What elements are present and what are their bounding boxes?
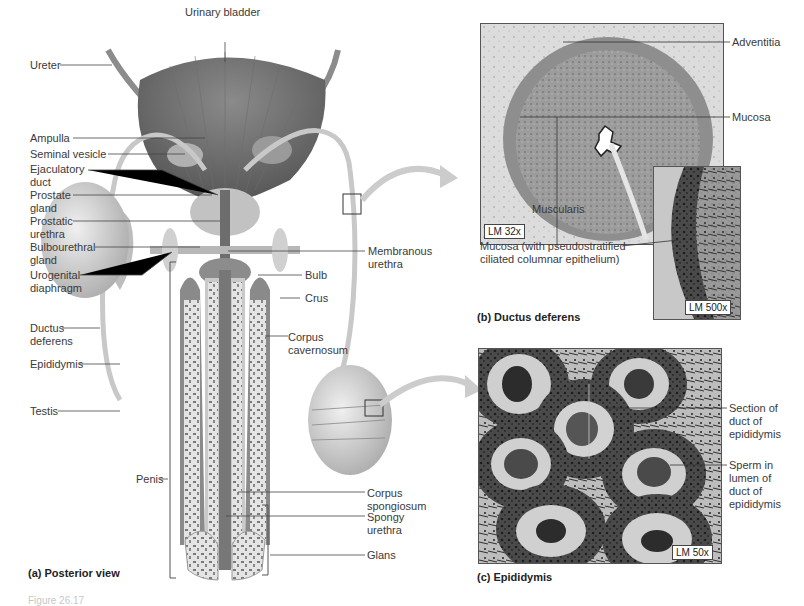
label-mucosa: Mucosa [732, 111, 771, 124]
caption-panel-a: (a) Posterior view [28, 567, 120, 579]
label-muscularis: Muscularis [532, 203, 585, 216]
label-corpus-cavernosum: Corpus cavernosum [288, 331, 348, 357]
label-sperm-in-lumen: Sperm in lumen of duct of epididymis [729, 459, 781, 511]
label-ejaculatory-duct: Ejaculatory duct [30, 163, 84, 189]
label-adventitia: Adventitia [732, 36, 780, 49]
caption-panel-c: (c) Epididymis [477, 571, 552, 583]
label-ampulla: Ampulla [30, 132, 70, 145]
caption-panel-b: (b) Ductus deferens [477, 311, 580, 323]
label-seminal-vesicle: Seminal vesicle [30, 148, 106, 161]
label-membranous-urethra: Membranous urethra [368, 245, 432, 271]
label-crus: Crus [305, 292, 328, 305]
label-prostatic-urethra: Prostatic urethra [30, 215, 73, 241]
label-glans: Glans [367, 549, 396, 562]
label-bulb: Bulb [305, 269, 327, 282]
label-spongy-urethra: Spongy urethra [367, 511, 404, 537]
label-ductus-deferens: Ductus deferens [30, 322, 73, 348]
label-section-of-duct: Section of duct of epididymis [729, 402, 781, 441]
label-urogenital-diaphragm: Urogenital diaphragm [30, 269, 82, 295]
label-penis: Penis [136, 473, 164, 486]
figure-number: Figure 26.17 [28, 594, 84, 606]
label-mucosa-epithelium: Mucosa (with pseudostratified ciliated c… [480, 240, 626, 266]
label-bulbourethral-gland: Bulbourethral gland [30, 241, 95, 267]
label-epididymis: Epididymis [30, 358, 83, 371]
label-ureter: Ureter [30, 59, 61, 72]
label-corpus-spongiosum: Corpus spongiosum [367, 487, 426, 513]
label-testis: Testis [30, 405, 58, 418]
label-urinary-bladder: Urinary bladder [185, 6, 260, 19]
label-prostate-gland: Prostate gland [30, 189, 71, 215]
